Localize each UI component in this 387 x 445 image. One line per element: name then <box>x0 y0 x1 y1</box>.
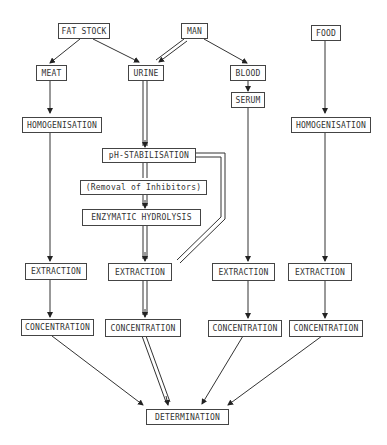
node-extraction-urine: EXTRACTION <box>108 263 172 281</box>
node-man: MAN <box>181 23 208 39</box>
node-concentration-food: CONCENTRATION <box>289 320 363 337</box>
node-food: FOOD <box>311 25 341 41</box>
node-concentration-meat: CONCENTRATION <box>21 319 94 336</box>
node-blood: BLOOD <box>230 65 266 81</box>
node-ph-stabilisation: pH-STABILISATION <box>102 148 196 163</box>
node-concentration-serum: CONCENTRATION <box>208 320 282 337</box>
node-determination: DETERMINATION <box>146 409 229 425</box>
node-extraction-food: EXTRACTION <box>288 263 352 281</box>
node-removal-of-inhibitors: (Removal of Inhibitors) <box>80 180 207 195</box>
node-homogenisation-meat: HOMOGENISATION <box>22 117 102 133</box>
node-homogenisation-food: HOMOGENISATION <box>291 117 371 133</box>
node-extraction-meat: EXTRACTION <box>25 263 87 280</box>
node-extraction-serum: EXTRACTION <box>212 263 275 281</box>
node-concentration-urine: CONCENTRATION <box>105 319 181 337</box>
node-urine: URINE <box>128 65 164 81</box>
node-serum: SERUM <box>231 92 265 108</box>
node-meat: MEAT <box>36 65 67 81</box>
node-fat-stock: FAT STOCK <box>58 23 110 39</box>
flow-diagram: FAT STOCK MAN FOOD MEAT URINE BLOOD SERU… <box>0 0 387 445</box>
node-enzymatic-hydrolysis: ENZYMATIC HYDROLYSIS <box>82 209 201 226</box>
